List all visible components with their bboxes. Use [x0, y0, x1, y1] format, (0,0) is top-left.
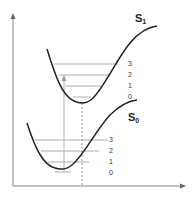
s1-level-label-2: 2	[128, 71, 132, 78]
s0-label: S0	[128, 111, 139, 124]
s0-level-label-0: 0	[109, 169, 113, 176]
axes	[11, 13, 187, 189]
s0-level-label-1: 1	[109, 158, 113, 165]
s0-curve	[27, 100, 137, 169]
s1-label: S1	[135, 12, 146, 25]
s0-level-label-2: 2	[109, 147, 113, 154]
s1-curve	[47, 26, 157, 103]
s1-level-label-0: 0	[128, 93, 132, 100]
arrow-up-icon	[62, 75, 67, 81]
s0-level-label-3: 3	[109, 136, 113, 143]
x-axis-arrow-icon	[180, 184, 186, 189]
y-axis-arrow-icon	[11, 13, 16, 19]
s0-levels	[35, 140, 108, 172]
energy-diagram: S1 S0 3 2 1 0 3 2 1 0	[0, 0, 196, 198]
s1-level-label-3: 3	[128, 60, 132, 67]
s1-level-label-1: 1	[128, 82, 132, 89]
